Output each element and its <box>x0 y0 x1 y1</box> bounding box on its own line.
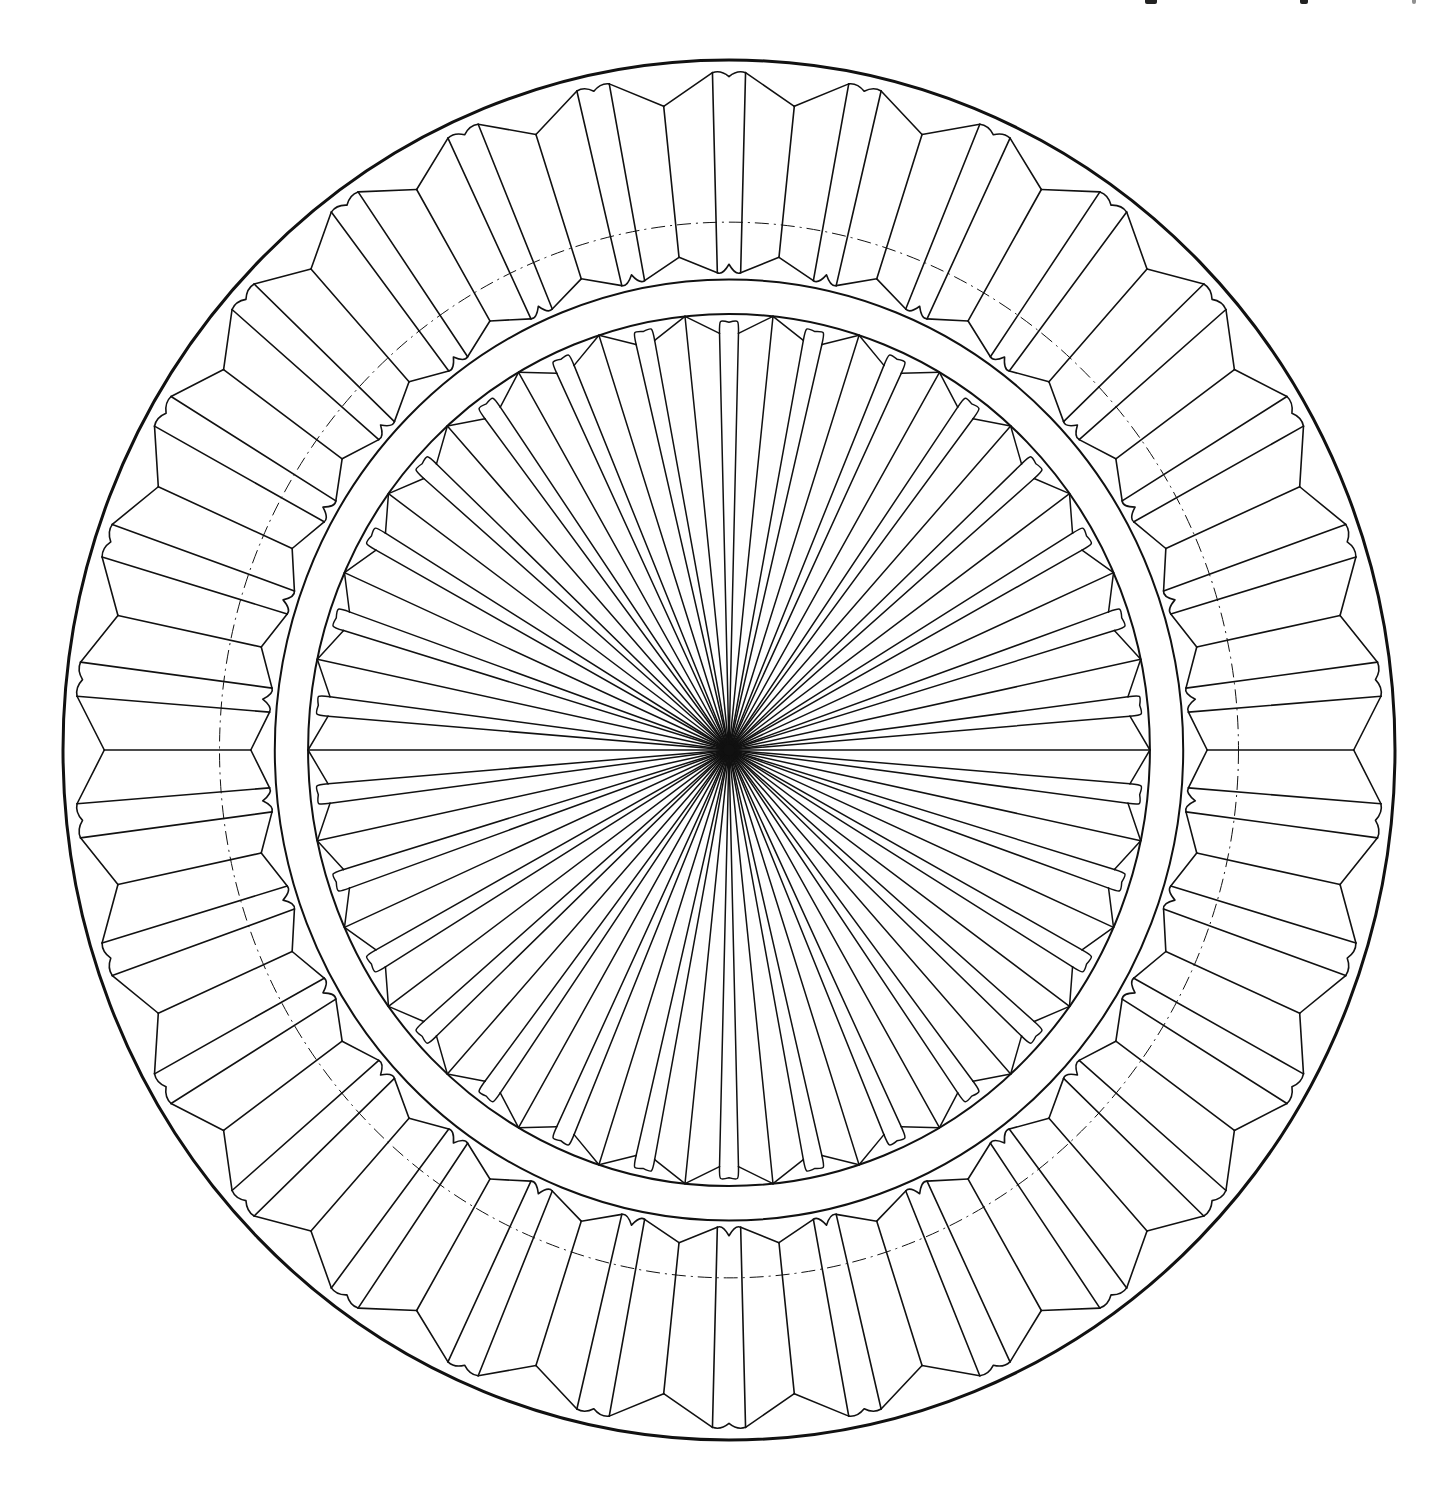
radial-spoke <box>519 372 729 750</box>
flute-edge <box>331 212 448 371</box>
flute-outer-scallop <box>1375 804 1381 838</box>
flute-outer-scallop <box>77 662 83 696</box>
panel-ridge <box>1116 370 1235 459</box>
panel-inner-edge <box>1116 999 1122 1041</box>
lobe-side <box>729 750 901 1127</box>
panel-ridge <box>118 615 261 647</box>
lobe-side <box>636 345 729 750</box>
flute-outer-scallop <box>712 72 745 77</box>
panel-outer-edge <box>1340 557 1356 615</box>
flute-inner-scallop <box>990 357 1009 371</box>
panel-outer-edge <box>1041 189 1100 191</box>
panel-inner-edge <box>1116 459 1122 501</box>
panel-inner-edge <box>836 279 877 286</box>
panel-inner-edge <box>877 279 906 309</box>
panel-inner-edge <box>261 812 272 853</box>
panel-ridge <box>224 1041 343 1130</box>
panel-outer-edge <box>746 1394 795 1428</box>
flute-outer-scallop <box>849 84 881 92</box>
panel-ridge <box>1197 615 1340 647</box>
lobe-cap <box>1073 528 1092 550</box>
panel-outer-edge <box>224 1130 232 1190</box>
lobe-side <box>720 750 729 1167</box>
panel-inner-edge <box>336 999 342 1041</box>
panel-inner-edge <box>679 257 717 272</box>
lobe-side <box>729 533 1073 750</box>
flute-outer-scallop <box>577 1409 609 1417</box>
radial-spoke <box>685 750 729 1184</box>
panel-ridge <box>536 134 581 278</box>
lobe-side <box>485 750 729 1081</box>
lobe-side <box>729 750 1114 869</box>
panel-ridge <box>779 106 794 257</box>
flute-edge <box>741 73 746 273</box>
panel-inner-edge <box>1009 1118 1049 1129</box>
radial-spoke <box>729 750 1114 927</box>
lobe-cap <box>1128 784 1142 804</box>
radial-spoke <box>344 573 729 750</box>
flute-outer-scallop <box>1346 524 1356 557</box>
panel-outer-edge <box>881 1366 922 1409</box>
panel-outer-edge <box>1300 426 1304 487</box>
flute-edge <box>1009 212 1126 371</box>
lobe-side <box>729 479 1034 750</box>
panel-outer-edge <box>794 84 848 106</box>
panel-inner-edge <box>927 319 968 321</box>
panel-outer-edge <box>1226 1130 1234 1190</box>
panel-inner-edge <box>261 647 272 688</box>
panel-outer-edge <box>81 838 118 885</box>
panel-outer-edge <box>609 1394 663 1416</box>
radial-spoke <box>729 372 939 750</box>
rosette-v-edge <box>822 1155 859 1164</box>
flute-inner-scallop <box>283 886 294 909</box>
lobe-cap <box>1109 609 1126 631</box>
rosette-v-edge <box>344 888 349 927</box>
flute-outer-scallop <box>577 84 609 92</box>
flute-edge <box>1186 662 1378 688</box>
panel-inner-edge <box>409 371 449 382</box>
panel-ridge <box>779 1243 794 1394</box>
panel-inner-edge <box>490 1179 531 1181</box>
rosette-v-edge <box>1070 967 1073 1006</box>
panel-outer-edge <box>881 91 922 134</box>
flute-inner-scallop <box>1164 886 1175 909</box>
flute-outer-scallop <box>849 1409 881 1417</box>
flute-outer-scallop <box>1287 396 1304 426</box>
lobe-side <box>385 750 729 967</box>
lobe-cap <box>333 869 350 891</box>
panel-inner-edge <box>1009 371 1049 382</box>
flute-edge <box>712 73 717 273</box>
lobe-side <box>729 750 738 1167</box>
panel-ridge <box>1116 1041 1235 1130</box>
flute-outer-scallop <box>448 124 478 138</box>
lobe-cap <box>884 355 905 374</box>
panel-outer-edge <box>1234 1104 1287 1131</box>
flute-edge <box>448 138 531 319</box>
lobe-cap <box>416 457 436 479</box>
radial-spoke <box>344 750 729 927</box>
rosette-v-edge <box>1070 494 1073 533</box>
panel-inner-edge <box>1188 712 1207 750</box>
panel-outer-edge <box>254 1216 311 1231</box>
lobe-side <box>729 345 822 750</box>
panel-outer-edge <box>1041 1308 1100 1310</box>
lobe-cap <box>367 950 386 972</box>
lobe-cap <box>333 609 350 631</box>
rosette-v-edge <box>822 335 859 344</box>
hub-center-dot <box>723 744 734 755</box>
panel-outer-edge <box>922 124 980 134</box>
panel-ridge <box>311 269 409 382</box>
panel-outer-edge <box>1340 885 1356 943</box>
lobe-side <box>729 373 901 750</box>
radial-spoke <box>447 426 729 750</box>
radial-spoke <box>729 659 1141 750</box>
rosette-v-edge <box>1109 888 1114 927</box>
flute-outer-scallop <box>712 1423 745 1428</box>
panel-outer-edge <box>1010 1311 1041 1362</box>
flute-outer-scallop <box>155 1074 172 1104</box>
rosette-v-edge <box>1109 573 1114 612</box>
panel-outer-edge <box>1340 838 1377 885</box>
panel-outer-edge <box>358 1308 417 1310</box>
lobe-cap <box>316 784 330 804</box>
lobe-cap <box>553 355 574 374</box>
